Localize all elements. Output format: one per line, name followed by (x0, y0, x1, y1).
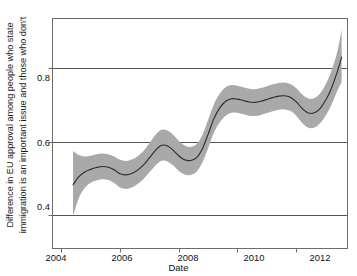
y-tick-label-0.4: 0.4 (28, 202, 50, 212)
plot-frame (53, 19, 348, 249)
x-axis-label: Date (0, 262, 357, 273)
y-axis-label-line1: Difference in EU approval among people w… (4, 0, 17, 250)
confidence-band (73, 30, 342, 217)
chart-figure: Model estimates Difference in EU approva… (0, 0, 357, 276)
plot-area (0, 0, 357, 276)
y-tick-label-0.6: 0.6 (28, 138, 50, 148)
y-tick-labels: 0.4 0.6 0.8 (26, 0, 50, 276)
y-tick-label-0.8: 0.8 (28, 73, 50, 83)
